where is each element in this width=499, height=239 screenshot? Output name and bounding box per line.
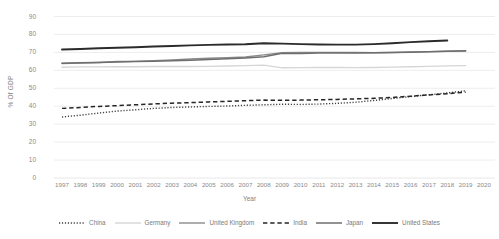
plot-area bbox=[0, 0, 499, 239]
legend-label: United States bbox=[402, 219, 440, 226]
series-line-united-states bbox=[62, 41, 447, 50]
legend-label: Japan bbox=[346, 219, 363, 226]
legend-swatch-solid-icon bbox=[316, 220, 342, 226]
legend-swatch-solid-icon bbox=[115, 220, 141, 226]
legend-swatch-solid-icon bbox=[372, 220, 398, 226]
series-line-china bbox=[62, 91, 466, 117]
legend-item-united-states[interactable]: United States bbox=[372, 219, 440, 226]
legend-item-india[interactable]: India bbox=[263, 219, 307, 226]
x-axis-tick: 2020 bbox=[472, 181, 496, 188]
chart-legend: ChinaGermanyUnited KingdomIndiaJapanUnit… bbox=[0, 219, 499, 226]
line-chart: % Of GDP 0102030405060708090 19971998199… bbox=[0, 0, 499, 239]
legend-swatch-dotted-icon bbox=[59, 220, 85, 226]
legend-item-japan[interactable]: Japan bbox=[316, 219, 363, 226]
legend-label: India bbox=[293, 219, 307, 226]
x-axis-title: Year bbox=[0, 195, 499, 202]
legend-label: China bbox=[89, 219, 105, 226]
legend-label: United Kingdom bbox=[209, 219, 254, 226]
legend-label: Germany bbox=[145, 219, 171, 226]
legend-item-china[interactable]: China bbox=[59, 219, 105, 226]
legend-item-germany[interactable]: Germany bbox=[115, 219, 171, 226]
series-line-germany bbox=[62, 65, 466, 68]
legend-swatch-dashed-icon bbox=[263, 220, 289, 226]
legend-swatch-solid-icon bbox=[179, 220, 205, 226]
legend-item-united-kingdom[interactable]: United Kingdom bbox=[179, 219, 254, 226]
